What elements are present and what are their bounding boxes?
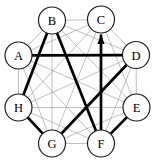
graph-node-a[interactable]: A — [5, 42, 32, 69]
bold-edge-f-e — [110, 117, 127, 134]
graph-node-d[interactable]: D — [123, 42, 150, 69]
graph-edge-c-d — [110, 29, 126, 45]
node-label-a: A — [14, 49, 23, 63]
graph-edge-a-b — [28, 30, 43, 45]
graph-node-g[interactable]: G — [39, 130, 66, 157]
node-label-g: G — [47, 137, 56, 151]
graph-canvas: ABCDEFGH — [0, 0, 159, 165]
graph-node-b[interactable]: B — [39, 7, 66, 34]
node-label-b: B — [48, 14, 56, 28]
arrowhead-icon-f-c — [97, 35, 104, 45]
graph-node-e[interactable]: E — [123, 94, 150, 121]
node-label-c: C — [97, 13, 105, 27]
graph-edge-b-e — [61, 30, 127, 98]
node-label-f: F — [98, 137, 105, 151]
node-label-e: E — [133, 101, 141, 115]
bold-edge-h-g — [28, 117, 43, 133]
graph-node-f[interactable]: F — [88, 130, 115, 157]
graph-figure: ABCDEFGH — [0, 0, 159, 165]
node-label-d: D — [131, 49, 140, 63]
graph-node-c[interactable]: C — [88, 6, 115, 33]
bold-edge-layer — [23, 33, 127, 134]
graph-node-h[interactable]: H — [5, 94, 32, 121]
node-label-h: H — [14, 101, 23, 115]
